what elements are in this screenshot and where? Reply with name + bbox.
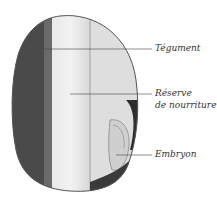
seed-coat-region — [0, 0, 50, 202]
food-reserve-region — [52, 0, 90, 202]
reserve-label-line2: de nourriture — [155, 100, 216, 111]
tegument-label: Tégument — [155, 43, 200, 54]
seed-diagram: Tégument Réserve de nourriture Embryon — [0, 0, 217, 202]
embryon-label: Embryon — [155, 149, 196, 160]
reserve-label-line1: Réserve — [155, 88, 192, 99]
